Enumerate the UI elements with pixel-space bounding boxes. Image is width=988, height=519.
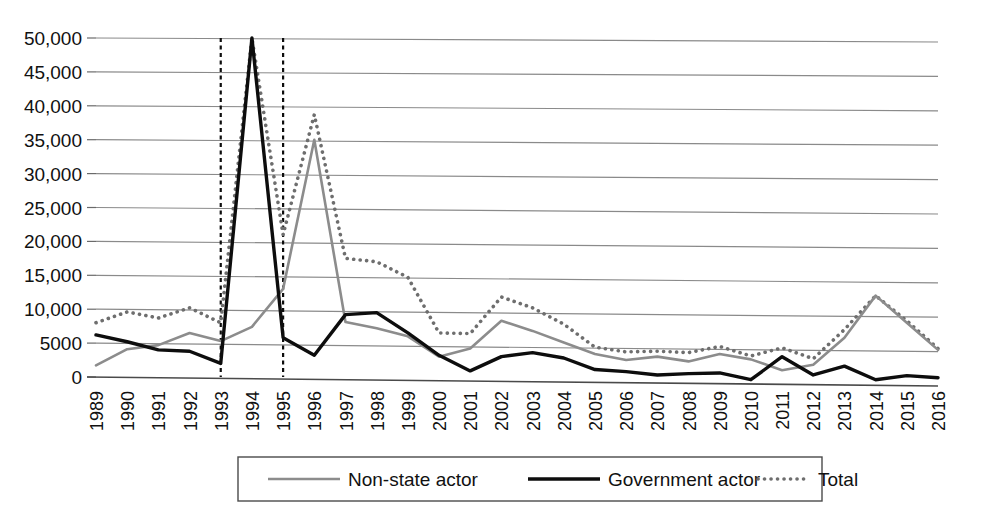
x-axis-tick-label: 1993	[212, 391, 232, 431]
x-axis-tick-label: 2003	[524, 391, 544, 431]
x-axis-tick-label: 1990	[118, 391, 138, 431]
y-axis-tick-label: 0	[71, 367, 82, 388]
y-axis-tick-label: 40,000	[24, 96, 82, 117]
y-axis-tick-label: 25,000	[24, 198, 82, 219]
y-axis-tick-label: 10,000	[24, 299, 82, 320]
x-axis-tick-label: 2002	[492, 391, 512, 431]
x-axis-tick-label: 2007	[648, 391, 668, 431]
gridline	[96, 208, 938, 215]
y-axis-tick-label: 20,000	[24, 231, 82, 252]
gridline	[96, 106, 938, 111]
x-axis-tick-label: 2016	[929, 391, 949, 431]
gridline	[96, 241, 938, 248]
x-axis-tick-label: 2010	[742, 391, 762, 431]
y-axis-tick-label: 50,000	[24, 28, 82, 49]
y-axis-tick-label: 35,000	[24, 130, 82, 151]
series-line-total	[96, 38, 938, 359]
x-axis-tick-label: 2004	[555, 391, 575, 431]
x-axis-tick-label: 1994	[243, 391, 263, 431]
chart-legend: Non-state actorGovernment actorTotal	[238, 457, 858, 501]
x-axis-tick-label: 2001	[461, 391, 481, 431]
x-axis-tick-label: 2015	[898, 391, 918, 431]
x-axis-tick-label: 1989	[87, 391, 107, 431]
x-axis-tick-label: 2011	[773, 391, 793, 430]
x-axis-tick-label: 2009	[711, 391, 731, 431]
gridline	[96, 140, 938, 146]
x-axis-tick-label: 1997	[337, 391, 357, 431]
y-axis-tick-label: 45,000	[24, 62, 82, 83]
x-axis-tick-label: 1995	[274, 391, 294, 431]
x-axis-tick-label: 1992	[181, 391, 201, 431]
y-axis-tick-label: 5000	[40, 333, 82, 354]
legend-label: Total	[818, 469, 858, 490]
y-axis-tick-labels: 0500010,00015,00020,00025,00030,00035,00…	[24, 28, 82, 388]
x-axis-tick-label: 2005	[586, 391, 606, 431]
gridline	[96, 174, 938, 180]
legend-label: Government actor	[608, 469, 761, 490]
x-axis-tick-labels: 1989199019911992199319941995199619971998…	[87, 391, 949, 431]
x-axis-line	[87, 377, 938, 386]
x-axis-tick-label: 2008	[680, 391, 700, 431]
y-axis-tick-label: 30,000	[24, 164, 82, 185]
gridline	[96, 72, 938, 77]
y-axis-tick-label: 15,000	[24, 265, 82, 286]
line-chart: 0500010,00015,00020,00025,00030,00035,00…	[0, 0, 988, 519]
gridline	[96, 275, 938, 283]
x-axis-tick-label: 2013	[835, 391, 855, 431]
x-axis-tick-label: 1991	[149, 391, 169, 431]
x-axis-tick-label: 2014	[867, 391, 887, 431]
x-axis-tick-label: 1996	[305, 391, 325, 431]
x-axis-tick-label: 1998	[368, 391, 388, 431]
gridline	[96, 38, 938, 42]
legend-label: Non-state actor	[348, 469, 479, 490]
x-axis-tick-label: 2006	[617, 391, 637, 431]
x-axis-tick-label: 2000	[430, 391, 450, 431]
y-tickmarks-group	[87, 38, 96, 377]
chart-container: 0500010,00015,00020,00025,00030,00035,00…	[0, 0, 988, 519]
x-axis-tick-label: 2012	[804, 391, 824, 431]
x-axis-tick-label: 1999	[399, 391, 419, 431]
